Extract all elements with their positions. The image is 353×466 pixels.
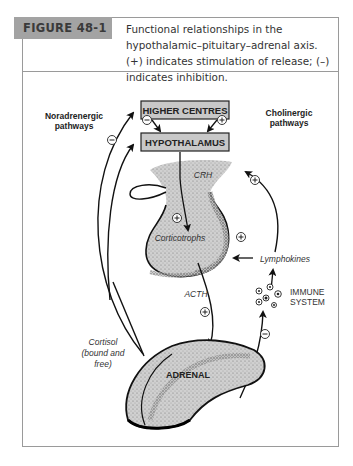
plus-sign-icon [237, 233, 246, 242]
cholinergic-label: Cholinergic [266, 108, 313, 118]
noradrenergic-label-2: pathways [55, 121, 94, 131]
cortisol-line [113, 282, 144, 356]
noradrenergic-label: Noradrenergic [45, 111, 103, 121]
adrenal-gland: ADRENAL [126, 340, 264, 428]
plus-sign-icon [218, 116, 227, 125]
svg-text:HIGHER CENTRES: HIGHER CENTRES [143, 105, 228, 116]
noradrenergic-to-hypothalamus-arrow [108, 145, 133, 300]
cortisol-label-3: free) [94, 359, 112, 369]
cortisol-to-higher-centres-arrow [98, 113, 143, 354]
hypothalamus-box: HYPOTHALAMUS [141, 133, 229, 151]
adrenal-label: ADRENAL [166, 370, 211, 380]
cortisol-label-2: (bound and [81, 348, 124, 358]
immune-system-label-2: SYSTEM [290, 297, 325, 307]
svg-text:HYPOTHALAMUS: HYPOTHALAMUS [145, 137, 225, 148]
immune-cells-icon [256, 284, 281, 308]
minus-sign-icon [261, 330, 270, 339]
minus-sign-icon [108, 136, 117, 145]
hpa-axis-diagram: HIGHER CENTRES HYPOTHALAMUS Noradrenergi… [0, 0, 353, 466]
stimulate-arrow [208, 120, 217, 131]
plus-sign-icon [173, 214, 182, 223]
acth-arrow [198, 263, 213, 345]
cortisol-label: Cortisol [89, 337, 119, 347]
corticotrophs-label: Corticotrophs [155, 233, 206, 243]
plus-sign-icon [201, 308, 210, 317]
cholinergic-label-2: pathways [270, 118, 309, 128]
higher-centres-box: HIGHER CENTRES [141, 101, 229, 119]
crh-label: CRH [194, 170, 213, 180]
minus-sign-icon [143, 116, 152, 125]
plus-sign-icon [251, 176, 260, 185]
cholinergic-arrow [246, 172, 278, 252]
acth-label: ACTH [183, 289, 208, 299]
lymphokines-label: Lymphokines [260, 254, 311, 264]
inhibit-arrow [152, 120, 160, 131]
immune-system-label: IMMUNE [290, 287, 325, 297]
